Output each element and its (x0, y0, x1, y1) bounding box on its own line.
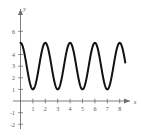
x-axis-tick-labels: 1 2 3 4 5 6 7 8 (31, 106, 121, 112)
series-line-oscillating-curve (21, 43, 126, 90)
y-axis-label: y (22, 6, 26, 12)
y-tick-label: 3 (12, 63, 15, 69)
y-tick-label: 2 (12, 75, 15, 81)
y-tick-label: -2 (10, 122, 15, 128)
chart-plot-area: 1 2 3 4 5 6 7 8 -2 -1 1 2 3 4 6 (0, 0, 141, 137)
y-tick-label: -1 (10, 110, 15, 116)
y-tick-label: 4 (12, 52, 15, 58)
x-axis-label: x (133, 99, 137, 105)
x-tick-label: 3 (56, 106, 59, 112)
x-tick-label: 1 (31, 106, 34, 112)
y-tick-label: 6 (12, 29, 15, 35)
x-tick-label: 2 (44, 106, 47, 112)
x-tick-label: 8 (118, 106, 121, 112)
x-axis-arrow-icon (124, 98, 130, 103)
x-tick-label: 6 (93, 106, 96, 112)
chart-figure: 1 2 3 4 5 6 7 8 -2 -1 1 2 3 4 6 (0, 0, 141, 137)
y-tick-label: 1 (12, 87, 15, 93)
x-tick-label: 7 (106, 106, 109, 112)
x-tick-label: 4 (69, 106, 72, 112)
x-tick-label: 5 (81, 106, 84, 112)
y-axis-tick-labels: -2 -1 1 2 3 4 6 (10, 29, 15, 128)
